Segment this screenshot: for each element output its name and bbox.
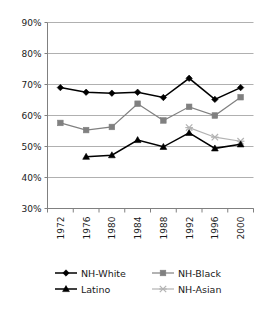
- x-tick-label: 1992: [185, 217, 195, 240]
- data-point-marker: [58, 120, 64, 126]
- x-tick-label: 2000: [236, 216, 246, 239]
- data-point-marker: [238, 94, 244, 100]
- data-point-marker: [161, 118, 167, 124]
- x-tick-label: 1980: [107, 216, 117, 239]
- legend-label: Latino: [81, 284, 110, 295]
- line-chart: 90%80%70%60%50%40%30% 197219761980198419…: [0, 0, 268, 311]
- data-point-marker: [212, 113, 218, 119]
- data-point-marker: [83, 127, 89, 133]
- chart-canvas: 90%80%70%60%50%40%30% 197219761980198419…: [0, 0, 268, 311]
- x-tick-label: 1988: [159, 216, 169, 239]
- y-tick-label: 80%: [21, 49, 41, 59]
- legend-marker: [160, 270, 166, 276]
- y-tick-label: 70%: [21, 80, 41, 90]
- legend-label: NH-Asian: [178, 284, 221, 295]
- y-tick-label: 40%: [21, 173, 41, 183]
- y-tick-label: 50%: [21, 142, 41, 152]
- chart-background: [0, 0, 268, 311]
- y-tick-label: 60%: [21, 111, 41, 121]
- data-point-marker: [135, 101, 141, 107]
- x-tick-label: 1976: [82, 216, 92, 239]
- data-point-marker: [109, 124, 115, 130]
- x-tick-label: 1996: [210, 216, 220, 239]
- data-point-marker: [186, 104, 192, 110]
- legend-label: NH-Black: [178, 268, 222, 279]
- y-tick-label: 30%: [21, 204, 41, 214]
- y-tick-label: 90%: [21, 18, 41, 28]
- legend-label: NH-White: [81, 268, 126, 279]
- x-tick-label: 1972: [56, 217, 66, 240]
- x-tick-label: 1984: [133, 216, 143, 239]
